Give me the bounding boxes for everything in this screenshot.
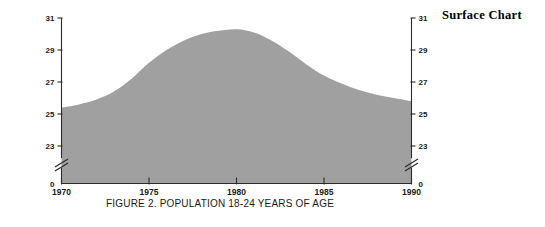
area-fill-path [62, 29, 412, 183]
x-tick-label: 1970 [52, 187, 71, 197]
y-axis-left-ticks: 31292725230 [46, 14, 63, 189]
figure-surface-chart: Surface Chart Millions 31292725230 31292… [0, 0, 545, 227]
y-tick-label-right: 27 [419, 78, 428, 87]
y-tick-label-right: 25 [419, 110, 428, 119]
area-series-population [62, 29, 412, 183]
y-tick-label-left: 31 [46, 14, 55, 23]
y-tick-label-right: 31 [419, 14, 428, 23]
x-tick-label: 1985 [315, 187, 334, 197]
y-tick-label-left: 23 [46, 142, 55, 151]
y-tick-label-left: 25 [46, 110, 55, 119]
y-tick-label-right: 29 [419, 46, 428, 55]
y-tick-label-left: 27 [46, 78, 55, 87]
x-tick-label: 1975 [140, 187, 159, 197]
y-tick-label-right: 23 [419, 142, 428, 151]
x-tick-label: 1980 [227, 187, 246, 197]
figure-caption: FIGURE 2. POPULATION 18-24 YEARS OF AGE [0, 198, 440, 209]
x-tick-label: 1990 [402, 187, 421, 197]
y-tick-label-left: 29 [46, 46, 55, 55]
chart-plot-area: 31292725230 31292725230 1970197519801985… [0, 0, 545, 227]
